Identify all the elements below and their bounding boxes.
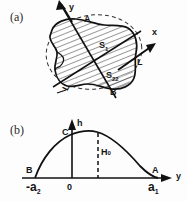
panel-b-h-axis-label: h [77,119,83,128]
panel-b-left-tick-sub: 2 [37,188,41,195]
panel-b-right-tick: a1 [148,181,159,195]
panel-b-height-label: H0 [101,148,111,157]
panel-b-left-tick-letter: -a [26,180,37,194]
panel-b-vertical-axis [68,119,76,178]
panel-b-y-axis-label: y [176,172,181,181]
panel-b-right-tick-letter: a [148,180,155,194]
panel-b-right-tick-sub: 1 [155,188,159,195]
panel-b-origin-label: 0 [67,183,72,192]
panel-b-left-tick: -a2 [26,181,41,195]
panel-b-profile-curve [35,131,158,178]
panel-b-height-sub: 0 [108,150,111,156]
panel-b-point-a-label: A [152,166,159,175]
panel-b-crest-label: C [62,128,69,137]
figure-root: (a) y x A B L L S1 S22 (b) h y [0,0,187,201]
panel-b-point-b-label: B [26,166,33,175]
panel-b-tag: (b) [10,124,24,136]
